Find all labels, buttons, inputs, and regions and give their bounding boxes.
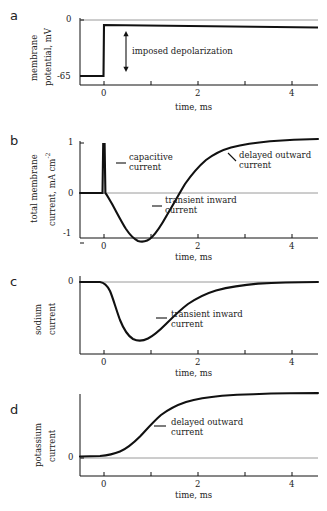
panel-a-plot	[0, 0, 327, 125]
panel-c-xlabel: time, ms	[175, 368, 212, 378]
panel-a-xtick-2: 2	[195, 88, 200, 98]
panel-d-xtick-0: 0	[101, 479, 106, 489]
panel-d: d potassium current 0 delayed outward cu…	[0, 384, 327, 511]
panel-d-xtick-4: 4	[289, 479, 294, 489]
panel-b-annotation-capacitive-current: capacitive current	[129, 153, 173, 173]
panel-c-xtick-0: 0	[101, 357, 106, 367]
panel-a-annotation-imposed-depolarization: imposed depolarization	[132, 47, 233, 57]
panel-d-annotation-delayed-outward: delayed outward current	[171, 418, 243, 438]
panel-b-plot	[0, 125, 327, 260]
panel-c-annotation-transient-inward: transient inward current	[171, 310, 243, 330]
panel-a-xtick-4: 4	[289, 88, 294, 98]
panel-b: b total membrane current, mA cm-2 1 0 -1	[0, 125, 327, 260]
panel-d-xtick-2: 2	[195, 479, 200, 489]
panel-c: c sodium current 0 transient inward curr…	[0, 262, 327, 382]
panel-d-plot	[0, 384, 327, 511]
panel-b-annotation-capacitive-line2: current	[129, 163, 173, 173]
panel-b-annotation-delayed-line2: current	[239, 161, 311, 171]
panel-a-xtick-0: 0	[101, 88, 106, 98]
panel-b-xtick-2: 2	[195, 241, 200, 251]
panel-a-xlabel: time, ms	[175, 102, 212, 112]
panel-c-annotation-transient-line2: current	[171, 320, 243, 330]
voltage-clamp-figure: a membrane potential, mV 0 -65 imposed d…	[0, 0, 327, 511]
panel-b-annotation-delayed-outward: delayed outward current	[239, 151, 311, 171]
panel-a: a membrane potential, mV 0 -65 imposed d…	[0, 0, 327, 125]
panel-b-xlabel: time, ms	[175, 252, 212, 262]
panel-b-xtick-4: 4	[289, 241, 294, 251]
panel-d-xlabel: time, ms	[175, 490, 212, 500]
panel-d-annotation-delayed-line2: current	[171, 428, 243, 438]
panel-b-annotation-transient-inward: transient inward current	[165, 196, 237, 216]
panel-c-plot	[0, 262, 327, 382]
panel-b-xtick-0: 0	[101, 241, 106, 251]
panel-c-xtick-2: 2	[195, 357, 200, 367]
panel-b-annotation-transient-line2: current	[165, 206, 237, 216]
panel-c-xtick-4: 4	[289, 357, 294, 367]
